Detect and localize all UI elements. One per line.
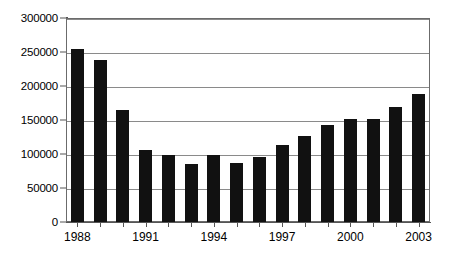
x-axis-tick-label: 1997 (269, 230, 296, 244)
x-axis-tick-mark (396, 222, 397, 227)
bar (162, 155, 175, 222)
bar (116, 110, 129, 222)
y-axis-tick-label: 150000 (0, 114, 58, 126)
bar (344, 119, 357, 222)
bar (253, 157, 266, 222)
x-axis-tick-mark (123, 222, 124, 227)
y-axis-tick-label: 300000 (0, 12, 58, 24)
x-axis-tick-mark (328, 222, 329, 227)
bar (298, 136, 311, 222)
x-axis-tick-mark (350, 222, 351, 227)
x-axis-labels: 198819911994199720002003 (0, 230, 450, 254)
bar (389, 107, 402, 222)
bar (185, 164, 198, 222)
bar (94, 60, 107, 222)
x-axis-tick-mark (168, 222, 169, 227)
bar (71, 49, 84, 222)
x-axis-tick-mark (214, 222, 215, 227)
bar (321, 125, 334, 222)
bar (230, 163, 243, 222)
x-axis-tick-label: 2003 (405, 230, 432, 244)
x-axis-tick-mark (191, 222, 192, 227)
x-axis-ticks (66, 222, 431, 230)
x-axis-tick-mark (259, 222, 260, 227)
bars-layer (66, 18, 430, 222)
x-axis-tick-mark (282, 222, 283, 227)
x-axis-tick-label: 1991 (132, 230, 159, 244)
bar (207, 155, 220, 222)
bar (412, 94, 425, 222)
bar (276, 145, 289, 222)
bar (367, 119, 380, 222)
y-axis-tick-label: 250000 (0, 46, 58, 58)
y-axis-labels: 050000100000150000200000250000300000 (0, 0, 62, 258)
x-axis-tick-mark (77, 222, 78, 227)
x-axis-tick-mark (146, 222, 147, 227)
x-axis-tick-mark (419, 222, 420, 227)
x-axis-tick-label: 1994 (201, 230, 228, 244)
x-axis-tick-label: 1988 (64, 230, 91, 244)
x-axis-tick-mark (373, 222, 374, 227)
x-axis-tick-mark (237, 222, 238, 227)
x-axis-tick-mark (305, 222, 306, 227)
bar (139, 150, 152, 222)
x-axis-tick-label: 2000 (337, 230, 364, 244)
y-axis-tick-label: 100000 (0, 148, 58, 160)
bar-chart: 050000100000150000200000250000300000 198… (0, 0, 450, 258)
y-axis-tick-label: 0 (0, 216, 58, 228)
x-axis-tick-mark (100, 222, 101, 227)
y-axis-tick-label: 50000 (0, 182, 58, 194)
y-axis-tick-label: 200000 (0, 80, 58, 92)
